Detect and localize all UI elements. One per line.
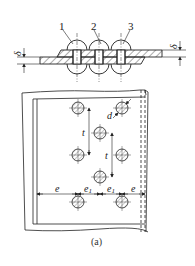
plan-dimensions xyxy=(37,99,145,194)
thickness-label-left: δ xyxy=(12,51,23,56)
rivet-hole xyxy=(69,193,87,211)
callout-3: 3 xyxy=(128,20,134,32)
callout-2: 2 xyxy=(91,20,97,32)
riveted-joint-drawing: 1 2 3 δ δ xyxy=(0,0,195,266)
rivet-hole xyxy=(113,146,131,164)
diameter-label-d: d xyxy=(107,110,113,121)
section-view xyxy=(17,30,186,82)
edge-label-e-left: e xyxy=(55,183,60,194)
rivet-hole xyxy=(91,124,109,142)
outer-plate-outline xyxy=(22,90,148,232)
edge-label-e-right: e xyxy=(131,183,136,194)
thickness-label-right: δ xyxy=(168,44,179,49)
edge-label-e1-right: e1 xyxy=(107,183,115,195)
pitch-label-t-2: t xyxy=(105,150,108,161)
edge-label-e1-left: e1 xyxy=(84,183,92,195)
rivet-hole xyxy=(69,146,87,164)
callout-1: 1 xyxy=(59,20,65,32)
plan-view xyxy=(22,90,148,232)
rivet-hole xyxy=(69,99,87,117)
rivet-hole xyxy=(113,193,131,211)
pitch-label-t-1: t xyxy=(82,127,85,138)
figure-caption: (a) xyxy=(91,236,102,248)
bottom-plate xyxy=(40,57,145,64)
